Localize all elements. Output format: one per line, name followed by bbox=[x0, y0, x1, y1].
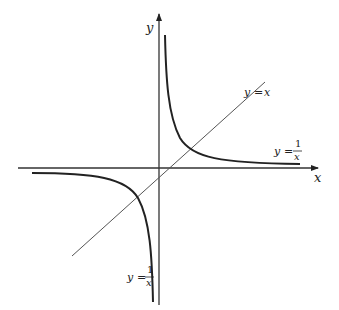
svg-text:1: 1 bbox=[147, 264, 153, 275]
reciprocal-label-right: y = 1 x bbox=[273, 138, 302, 162]
svg-text:x: x bbox=[294, 151, 300, 162]
svg-text:=: = bbox=[284, 145, 293, 158]
identity-line bbox=[72, 82, 265, 256]
svg-text:y: y bbox=[243, 86, 251, 99]
svg-text:=: = bbox=[137, 271, 146, 284]
identity-label: y = x bbox=[243, 86, 271, 99]
svg-text:x: x bbox=[264, 86, 271, 99]
svg-text:=: = bbox=[254, 86, 263, 99]
y-axis-label: y bbox=[145, 20, 154, 35]
svg-text:1: 1 bbox=[295, 138, 301, 149]
svg-text:x: x bbox=[146, 277, 152, 288]
reciprocal-label-left: y = 1 x bbox=[126, 264, 154, 288]
graph-canvas: y x y = x y = 1 x y = 1 x bbox=[0, 0, 339, 310]
x-axis-label: x bbox=[314, 170, 322, 185]
svg-text:y: y bbox=[126, 271, 134, 284]
svg-text:y: y bbox=[273, 145, 281, 158]
